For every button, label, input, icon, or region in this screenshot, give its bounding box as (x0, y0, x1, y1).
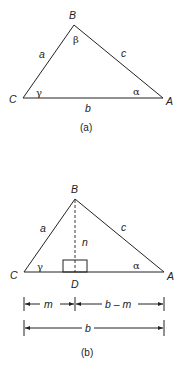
angle-gamma-label: γ (37, 261, 43, 272)
vertex-b-label: B (71, 183, 78, 195)
vertex-b-label: B (69, 9, 76, 21)
vertex-a-label: A (166, 270, 174, 282)
dimension-row-1: m b – m (24, 297, 164, 311)
vertex-c-label: C (9, 93, 17, 105)
dimension-row-2: b (24, 320, 164, 336)
side-a-label: a (40, 222, 46, 234)
caption-b: (b) (81, 347, 93, 358)
altitude-n-label: n (82, 236, 88, 248)
side-a-label: a (39, 48, 45, 60)
figure-b: B C A D a c n γ α m b – m b (b) (10, 183, 174, 358)
caption-a: (a) (80, 122, 92, 133)
figure-a: B C A a c b β γ α (a) (9, 9, 173, 133)
triangle-a (23, 25, 163, 98)
side-b-label: b (85, 102, 91, 114)
dim-b-label: b (85, 322, 91, 334)
vertex-a-label: A (165, 95, 173, 107)
side-c-label: c (121, 221, 127, 233)
dim-b-minus-m-label: b – m (105, 298, 132, 310)
vertex-c-label: C (10, 269, 18, 281)
dim-m-label: m (44, 298, 53, 310)
angle-gamma-label: γ (36, 87, 42, 98)
triangle-b (24, 199, 164, 272)
triangle-diagram: B C A a c b β γ α (a) B C A D a c n γ α (0, 0, 193, 370)
side-c-label: c (121, 47, 127, 59)
angle-alpha-label: α (133, 260, 140, 271)
vertex-d-label: D (71, 278, 79, 290)
angle-alpha-label: α (133, 86, 140, 97)
angle-beta-label: β (73, 34, 79, 45)
